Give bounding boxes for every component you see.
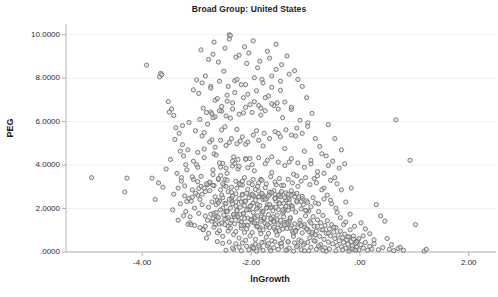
data-point (225, 99, 229, 103)
data-point (266, 194, 270, 198)
data-point (309, 221, 313, 225)
data-point (333, 136, 337, 140)
data-point (193, 191, 197, 195)
data-point (209, 86, 213, 90)
data-point (277, 202, 281, 206)
data-point (192, 206, 196, 210)
data-point (316, 209, 320, 213)
data-point (199, 48, 203, 52)
data-point (237, 236, 241, 240)
data-point (207, 231, 211, 235)
data-point (245, 227, 249, 231)
data-point (240, 241, 244, 245)
data-point (210, 200, 214, 204)
data-point (223, 125, 227, 129)
data-point (245, 244, 249, 248)
data-point (310, 230, 314, 234)
data-point (232, 155, 236, 159)
data-point (202, 156, 206, 160)
data-point (299, 199, 303, 203)
data-point (301, 243, 305, 247)
data-point (257, 156, 261, 160)
data-point (309, 205, 313, 209)
data-point (361, 234, 365, 238)
data-point (275, 101, 279, 105)
data-point (338, 216, 342, 220)
data-point (228, 116, 232, 120)
data-point (150, 176, 154, 180)
data-point (228, 226, 232, 230)
data-point (272, 225, 276, 229)
data-point (287, 72, 291, 76)
data-point (296, 77, 300, 81)
data-point (244, 199, 248, 203)
data-point (242, 45, 246, 49)
data-point (309, 245, 313, 249)
data-point (318, 234, 322, 238)
data-point (246, 140, 250, 144)
data-point (246, 92, 250, 96)
data-point (174, 126, 178, 130)
data-point (252, 221, 256, 225)
data-point (255, 66, 259, 70)
data-point (344, 220, 348, 224)
data-point (299, 248, 303, 252)
data-point (168, 157, 172, 161)
data-point (283, 163, 287, 167)
data-point (264, 206, 268, 210)
data-point (166, 100, 170, 104)
data-point (295, 126, 299, 130)
data-point (179, 179, 183, 183)
data-point (324, 154, 328, 158)
data-point (89, 176, 93, 180)
data-point (180, 123, 184, 127)
data-point (332, 230, 336, 234)
data-point (188, 215, 192, 219)
data-point (211, 173, 215, 177)
data-point (327, 227, 331, 231)
data-point (203, 214, 207, 218)
data-point (244, 83, 248, 87)
data-point (287, 246, 291, 250)
data-point (208, 140, 212, 144)
data-point (228, 206, 232, 210)
data-point (337, 166, 341, 170)
data-point (258, 203, 262, 207)
data-point (255, 214, 259, 218)
data-point (227, 197, 231, 201)
data-point (278, 79, 282, 83)
data-point (335, 210, 339, 214)
data-point (230, 101, 234, 105)
data-point (299, 223, 303, 227)
data-point (237, 245, 241, 249)
data-point (225, 178, 229, 182)
data-point (196, 165, 200, 169)
data-point (323, 246, 327, 250)
data-point (270, 155, 274, 159)
data-point (272, 220, 276, 224)
data-point (198, 197, 202, 201)
data-point (225, 209, 229, 213)
data-point (240, 135, 244, 139)
data-point (254, 89, 258, 93)
data-point (332, 225, 336, 229)
data-point (286, 239, 290, 243)
data-point (264, 182, 268, 186)
data-point (212, 225, 216, 229)
data-point (177, 131, 181, 135)
scatter-plot-figure: Broad Group: United States PEG .00002.00… (0, 0, 498, 297)
data-point (326, 231, 330, 235)
data-point (186, 148, 190, 152)
data-point (281, 236, 285, 240)
data-point (321, 228, 325, 232)
data-point (201, 106, 205, 110)
data-point (265, 49, 269, 53)
data-point (306, 240, 310, 244)
data-point (296, 161, 300, 165)
data-point (221, 241, 225, 245)
data-point (257, 138, 261, 142)
data-point (270, 85, 274, 89)
data-point (178, 202, 182, 206)
data-point (251, 177, 255, 181)
data-point (289, 105, 293, 109)
